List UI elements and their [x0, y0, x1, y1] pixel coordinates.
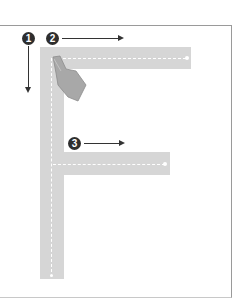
middle-arm-end-dot — [163, 162, 167, 166]
top-arm-end-dot — [185, 56, 189, 60]
step-badge-1: 1 — [22, 32, 35, 45]
step-1-down-arrow — [28, 46, 29, 88]
middle-arm-guide-line — [53, 164, 165, 165]
stem-end-dot — [50, 274, 53, 277]
step-3-right-arrow — [84, 143, 120, 144]
step-badge-3: 3 — [68, 137, 81, 150]
step-badge-2: 2 — [46, 32, 59, 45]
step-2-right-arrow — [62, 38, 119, 39]
hand-pointer-icon — [50, 55, 90, 103]
